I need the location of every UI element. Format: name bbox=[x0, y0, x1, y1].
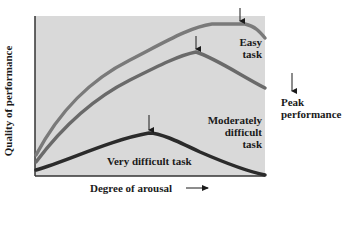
very-difficult-task-label: Very difficult task bbox=[107, 155, 192, 167]
moderate-task-label: Moderately difficult task bbox=[190, 114, 262, 150]
y-axis-label: Quality of performance bbox=[2, 26, 14, 176]
peak-performance-label: Peak performance bbox=[281, 96, 341, 120]
x-axis-label: Degree of arousal bbox=[90, 182, 172, 194]
easy-task-label-line1: Easy bbox=[222, 36, 262, 48]
moderate-task-label-line3: task bbox=[190, 138, 262, 150]
moderate-task-label-line2: difficult bbox=[190, 126, 262, 138]
easy-task-label-line2: task bbox=[222, 48, 262, 60]
moderate-task-label-line1: Moderately bbox=[190, 114, 262, 126]
peak-performance-line2: performance bbox=[281, 108, 341, 120]
easy-task-label: Easy task bbox=[222, 36, 262, 60]
peak-performance-line1: Peak bbox=[281, 96, 341, 108]
